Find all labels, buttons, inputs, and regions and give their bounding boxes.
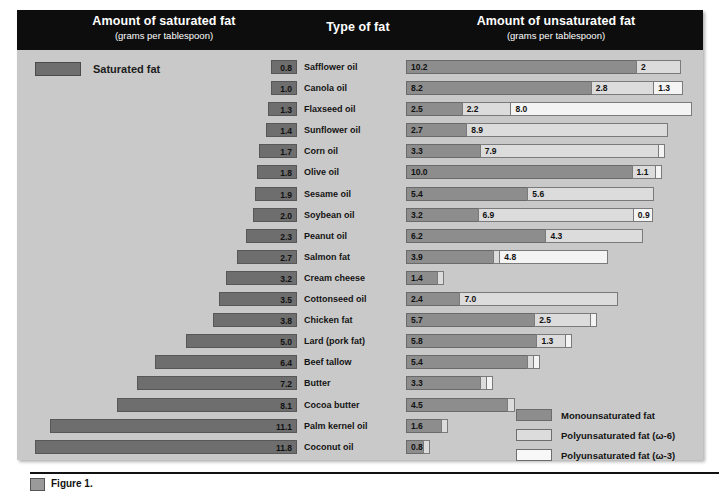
chart-row: 1.3Flaxseed oil2.52.28.0 <box>17 99 703 120</box>
fat-type-label: Cream cheese <box>304 271 400 285</box>
mono-segment: 2.5 <box>406 102 463 116</box>
mono-segment: 6.2 <box>406 229 546 243</box>
mono-segment-value: 2.7 <box>411 124 423 136</box>
saturated-bar-cell: 2.7 <box>17 250 297 264</box>
saturated-bar: 3.8 <box>213 313 297 327</box>
mono-segment-value: 3.2 <box>411 209 423 221</box>
omega6-segment: 1.1 <box>632 165 657 179</box>
mono-segment: 2.7 <box>406 123 467 137</box>
saturated-value: 1.3 <box>280 103 292 117</box>
omega6-segment-value: 4.3 <box>550 230 562 242</box>
unsaturated-bar-cell: 8.22.81.3 <box>406 81 696 95</box>
mono-segment: 2.4 <box>406 292 460 306</box>
omega3-segment: 1.3 <box>653 81 682 95</box>
chart-row: 5.0Lard (pork fat)5.81.3 <box>17 331 703 352</box>
unsaturated-bar-cell: 3.26.90.9 <box>406 208 696 222</box>
chart-row: 3.2Cream cheese1.4 <box>17 268 703 289</box>
saturated-value: 3.5 <box>280 293 292 307</box>
saturated-bar: 11.8 <box>35 440 297 454</box>
omega3-segment: 0.9 <box>633 208 653 222</box>
unsaturated-bar-cell: 2.52.28.0 <box>406 102 696 116</box>
omega6-segment: 7.9 <box>480 144 659 158</box>
chart-row: 2.0Soybean oil3.26.90.9 <box>17 205 703 226</box>
saturated-bar-cell: 1.8 <box>17 165 297 179</box>
mono-segment: 5.8 <box>406 334 537 348</box>
chart-row: 6.4Beef tallow5.4 <box>17 352 703 373</box>
omega6-segment-value: 7.0 <box>464 293 476 305</box>
omega6-segment: 7.0 <box>459 292 618 306</box>
mono-segment: 4.5 <box>406 398 508 412</box>
mono-segment-value: 2.5 <box>411 103 423 115</box>
unsaturated-bar-cell: 3.94.8 <box>406 250 696 264</box>
chart-row: 7.2Butter3.3 <box>17 373 703 394</box>
header-unsaturated-title: Amount of unsaturated fat <box>417 14 695 29</box>
saturated-value: 8.1 <box>280 399 292 413</box>
unsaturated-bar-cell: 2.78.9 <box>406 123 696 137</box>
saturated-value: 1.9 <box>280 188 292 202</box>
saturated-bar: 8.1 <box>117 398 297 412</box>
saturated-value: 6.4 <box>280 356 292 370</box>
omega6-segment <box>423 440 430 454</box>
chart-panel: Amount of saturated fat (grams per table… <box>17 10 703 460</box>
saturated-value: 1.8 <box>280 166 292 180</box>
header-unsaturated: Amount of unsaturated fat (grams per tab… <box>417 14 695 42</box>
mono-segment-value: 8.2 <box>411 82 423 94</box>
fat-type-label: Flaxseed oil <box>304 102 400 116</box>
mono-segment-value: 5.8 <box>411 335 423 347</box>
saturated-value: 11.8 <box>276 441 292 455</box>
legend-swatch-mono <box>516 409 552 421</box>
saturated-bar: 3.5 <box>219 292 297 306</box>
saturated-bar-cell: 1.0 <box>17 81 297 95</box>
fat-type-label: Soybean oil <box>304 208 400 222</box>
saturated-value: 2.7 <box>280 251 292 265</box>
saturated-value: 1.7 <box>280 145 292 159</box>
unsaturated-bar-cell: 6.24.3 <box>406 229 696 243</box>
saturated-bar-cell: 3.5 <box>17 292 297 306</box>
fat-type-label: Peanut oil <box>304 229 400 243</box>
saturated-bar-cell: 11.8 <box>17 440 297 454</box>
caption: Figure 1. <box>30 478 93 491</box>
fat-type-label: Cottonseed oil <box>304 292 400 306</box>
mono-segment: 1.6 <box>406 419 442 433</box>
mono-segment: 8.2 <box>406 81 592 95</box>
legend-item: Monounsaturated fat <box>516 406 691 424</box>
omega6-segment-value: 6.9 <box>483 209 495 221</box>
header-saturated: Amount of saturated fat (grams per table… <box>29 14 299 42</box>
omega6-segment: 1.3 <box>536 334 565 348</box>
saturated-bar: 6.4 <box>155 355 297 369</box>
omega3-segment <box>565 334 572 348</box>
mono-segment-value: 3.9 <box>411 251 423 263</box>
saturated-value: 3.2 <box>280 272 292 286</box>
omega6-segment <box>437 271 444 285</box>
legend-item: Polyunsaturated fat (ω-3) <box>516 446 691 464</box>
saturated-bar: 2.7 <box>237 250 297 264</box>
omega6-segment: 2 <box>636 60 681 74</box>
chart-row: 1.4Sunflower oil2.78.9 <box>17 120 703 141</box>
saturated-bar: 1.9 <box>255 187 297 201</box>
saturated-bar-cell: 11.1 <box>17 419 297 433</box>
fat-type-label: Olive oil <box>304 165 400 179</box>
mono-segment-value: 10.2 <box>411 61 428 73</box>
saturated-bar: 2.3 <box>246 229 297 243</box>
fat-type-label: Cocoa butter <box>304 398 400 412</box>
chart-row: 3.8Chicken fat5.72.5 <box>17 310 703 331</box>
unsaturated-bar-cell: 5.45.6 <box>406 187 696 201</box>
fat-type-label: Coconut oil <box>304 440 400 454</box>
fat-type-label: Butter <box>304 376 400 390</box>
omega6-segment <box>441 419 448 433</box>
omega6-segment: 5.6 <box>527 187 654 201</box>
saturated-value: 3.8 <box>280 314 292 328</box>
chart-row: 1.7Corn oil3.37.9 <box>17 141 703 162</box>
saturated-bar: 0.8 <box>271 60 297 74</box>
mono-segment: 5.7 <box>406 313 535 327</box>
chart-row: 1.9Sesame oil5.45.6 <box>17 184 703 205</box>
saturated-value: 0.8 <box>280 61 292 75</box>
mono-segment: 3.9 <box>406 250 494 264</box>
fat-type-label: Chicken fat <box>304 313 400 327</box>
omega6-segment-value: 7.9 <box>485 145 497 157</box>
mono-segment-value: 5.4 <box>411 356 423 368</box>
mono-segment: 10.0 <box>406 165 633 179</box>
omega6-segment-value: 1.1 <box>637 166 649 178</box>
saturated-bar-cell: 1.3 <box>17 102 297 116</box>
saturated-bar-cell: 6.4 <box>17 355 297 369</box>
